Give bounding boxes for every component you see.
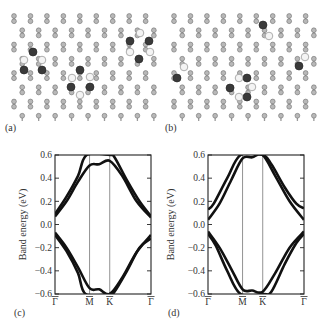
panel-b-lattice: (b) — [160, 0, 321, 140]
x-tick-label: K — [259, 297, 266, 307]
lattice-atoms — [12, 14, 157, 119]
lattice-atoms — [172, 14, 317, 119]
graphene-lattice-a — [0, 0, 160, 140]
y-tick-label: −0.6 — [35, 289, 52, 299]
y-tick-label: −0.4 — [188, 266, 205, 276]
panel-label-d: (d) — [168, 307, 180, 318]
y-tick-label: 0.6 — [193, 150, 205, 160]
band-curves — [55, 153, 151, 295]
panel-label-b: (b) — [165, 122, 177, 133]
x-tick-label: Γ — [52, 297, 58, 307]
y-axis-label: Band energy (eV) — [165, 189, 177, 260]
band-curves — [208, 153, 304, 296]
y-tick-label: 0.4 — [193, 173, 205, 183]
panel-c-band-structure: 0.60.40.20.0−0.2−0.4−0.6ΓMKΓBand energy … — [0, 140, 160, 324]
x-tick-label: Γ — [148, 297, 154, 307]
x-tick-label: M — [85, 297, 94, 307]
x-tick-label: Γ — [205, 297, 211, 307]
y-tick-label: 0.2 — [193, 197, 205, 207]
graphene-lattice-b — [160, 0, 321, 140]
y-tick-label: 0.6 — [40, 150, 52, 160]
panel-a-lattice: (a) — [0, 0, 160, 140]
x-tick-label: M — [238, 297, 247, 307]
y-tick-label: −0.2 — [35, 243, 52, 253]
band-plot-c: 0.60.40.20.0−0.2−0.4−0.6ΓMKΓBand energy … — [0, 140, 160, 324]
panel-d-band-structure: 0.60.40.20.0−0.2−0.4−0.6ΓMKΓBand energy … — [160, 140, 321, 324]
y-tick-label: −0.4 — [35, 266, 52, 276]
plot-frame — [55, 155, 151, 294]
panel-label-a: (a) — [5, 122, 16, 133]
y-tick-label: 0.0 — [40, 220, 52, 230]
y-tick-label: −0.2 — [188, 243, 205, 253]
plot-frame — [208, 155, 304, 294]
panel-label-c: (c) — [14, 307, 25, 318]
y-tick-label: −0.6 — [188, 289, 205, 299]
x-tick-label: Γ — [301, 297, 307, 307]
x-tick-label: K — [106, 297, 113, 307]
y-axis-label: Band energy (eV) — [17, 189, 29, 260]
adatoms-dark — [173, 21, 303, 101]
y-tick-label: 0.4 — [40, 173, 52, 183]
band-plot-d: 0.60.40.20.0−0.2−0.4−0.6ΓMKΓBand energy … — [160, 140, 321, 324]
y-tick-label: 0.0 — [193, 220, 205, 230]
y-tick-label: 0.2 — [40, 197, 52, 207]
lattice-bonds — [174, 16, 314, 121]
